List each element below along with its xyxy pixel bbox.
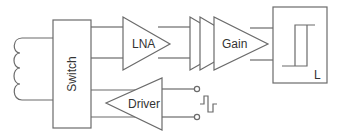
- transceiver-block-diagram: Switch LNA Gain L Driver: [0, 0, 338, 138]
- driver-label: Driver: [128, 97, 160, 111]
- lna-input-wires: [91, 27, 123, 58]
- coil-icon: [14, 38, 53, 100]
- terminal-bottom-icon: [194, 114, 199, 119]
- terminal-top-icon: [194, 86, 199, 91]
- cascaded-gain-stages: Gain: [190, 17, 268, 70]
- driver-input-terminals: [162, 86, 200, 119]
- switch-label: Switch: [65, 56, 79, 91]
- driver-amplifier: Driver: [106, 78, 162, 130]
- lna-label: LNA: [132, 37, 155, 51]
- limiter-label: L: [314, 68, 321, 82]
- gain-label: Gain: [222, 37, 247, 51]
- lna-amplifier: LNA: [123, 17, 170, 70]
- switch-block: Switch: [53, 20, 91, 128]
- limiter-block: L: [273, 7, 327, 83]
- pulse-signal-icon: [200, 96, 217, 112]
